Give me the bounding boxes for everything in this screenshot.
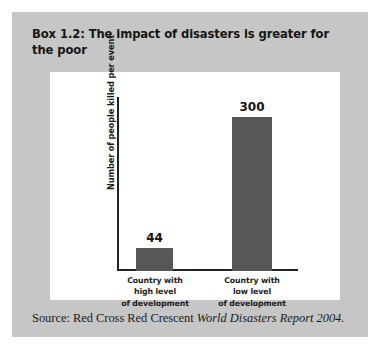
x-tick-label-line: of development [206,298,298,309]
source-prefix: Source: Red Cross Red Crescent [32,311,197,325]
x-tick-label-line: Country with [206,275,298,286]
chart-panel: Number of people killed per event 44 300… [50,72,340,300]
page-title: Box 1.2: The impact of disasters is grea… [32,27,354,58]
x-tick-label: Country with low level of development [206,275,298,309]
source-publication: World Disasters Report 2004. [197,311,345,325]
x-tick-label-line: of development [112,298,198,309]
source-caption: Source: Red Cross Red Crescent World Dis… [32,311,362,326]
bar-value-label: 44 [136,231,173,245]
figure-box: Box 1.2: The impact of disasters is grea… [12,12,368,337]
bar-high-value [232,117,272,271]
bar-low-value [136,248,173,271]
x-tick-label-line: high level [112,286,198,297]
y-axis-line [117,97,119,271]
bar-value-label: 300 [232,100,272,114]
x-tick-label-line: Country with [112,275,198,286]
x-tick-label-line: low level [206,286,298,297]
x-tick-label: Country with high level of development [112,275,198,309]
